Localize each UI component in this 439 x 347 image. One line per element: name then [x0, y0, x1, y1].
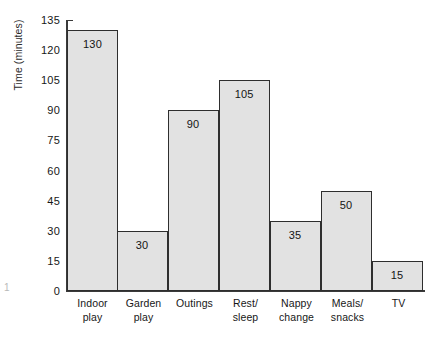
bar-column: 90 [169, 20, 220, 291]
category-label-line: Rest/ [220, 296, 271, 310]
y-tick-label: 15 [47, 255, 60, 267]
bar-chart: Time (minutes) 0153045607590105120135 13… [0, 0, 439, 347]
category-label: Indoorplay [67, 296, 118, 324]
category-label-line: Nappy [271, 296, 322, 310]
category-label-line: sleep [220, 310, 271, 324]
y-tick-label: 45 [47, 195, 60, 207]
bar: 35 [270, 221, 321, 291]
bar-column: 130 [67, 20, 118, 291]
bar-value-label: 15 [373, 269, 422, 281]
bar-value-label: 30 [118, 239, 167, 251]
category-label: Rest/sleep [220, 296, 271, 324]
bar-value-label: 90 [169, 118, 218, 130]
y-tick-label: 60 [47, 165, 60, 177]
y-tick-label: 135 [41, 14, 60, 26]
category-label-line: Outings [169, 296, 220, 310]
y-tick-label: 0 [54, 285, 60, 297]
bar-column: 50 [322, 20, 373, 291]
y-tick-label: 30 [47, 225, 60, 237]
category-label: Gardenplay [118, 296, 169, 324]
category-label-line: change [271, 310, 322, 324]
category-label: TV [373, 296, 424, 324]
y-tick-mark [66, 291, 73, 292]
category-label-line: TV [373, 296, 424, 310]
category-label: Nappychange [271, 296, 322, 324]
bar-column: 35 [271, 20, 322, 291]
bar-value-label: 35 [271, 229, 320, 241]
bar: 50 [321, 191, 372, 291]
category-label: Meals/snacks [322, 296, 373, 324]
y-tick-label: 105 [41, 74, 60, 86]
bar: 105 [219, 80, 270, 291]
y-tick-label: 75 [47, 134, 60, 146]
bar-value-label: 50 [322, 199, 371, 211]
category-label: Outings [169, 296, 220, 324]
category-label-line: play [118, 310, 169, 324]
category-label-line: play [67, 310, 118, 324]
bar: 90 [168, 110, 219, 291]
category-label-line: snacks [322, 310, 373, 324]
y-tick-label: 120 [41, 44, 60, 56]
bar: 130 [67, 30, 118, 291]
bar-column: 15 [373, 20, 424, 291]
category-label-line: Meals/ [322, 296, 373, 310]
category-label-line: Indoor [67, 296, 118, 310]
bar-value-label: 130 [68, 38, 117, 50]
category-label-line: Garden [118, 296, 169, 310]
x-axis-category-labels: IndoorplayGardenplayOutingsRest/sleepNap… [67, 296, 424, 324]
bar: 15 [372, 261, 423, 291]
bar-series: 1303090105355015 [67, 20, 424, 291]
page-artifact-mark: 1 [4, 282, 10, 293]
bar-value-label: 105 [220, 88, 269, 100]
bar: 30 [117, 231, 168, 291]
y-axis-title: Time (minutes) [12, 0, 28, 120]
bar-column: 30 [118, 20, 169, 291]
y-tick-label: 90 [47, 104, 60, 116]
bar-column: 105 [220, 20, 271, 291]
